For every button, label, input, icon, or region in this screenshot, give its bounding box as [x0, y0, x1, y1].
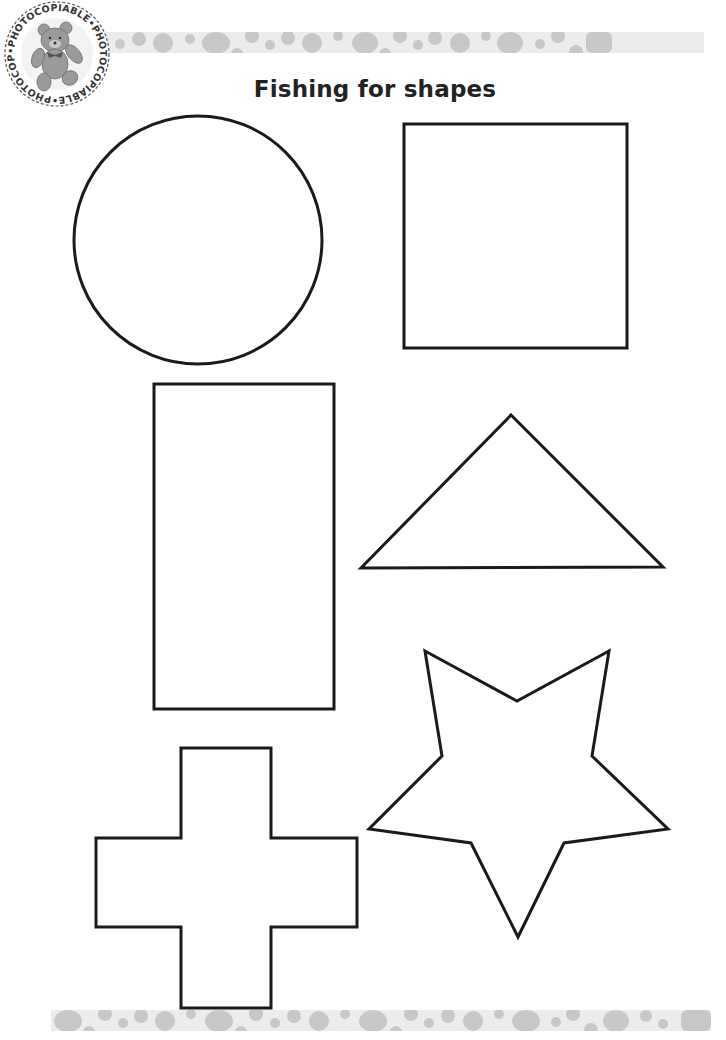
dots-pattern — [51, 1010, 711, 1031]
circle-shape — [74, 116, 322, 364]
rectangle-shape — [154, 384, 334, 709]
triangle-shape — [361, 415, 663, 568]
cross-shape — [96, 748, 357, 1008]
bottom-dotted-band — [51, 1010, 711, 1031]
square-shape — [404, 124, 627, 348]
shapes-canvas — [0, 0, 726, 1040]
star-shape — [369, 651, 668, 937]
